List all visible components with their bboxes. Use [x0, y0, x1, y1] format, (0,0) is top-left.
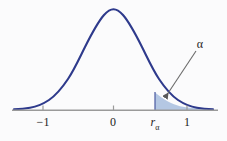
normal-density-curve — [14, 9, 213, 109]
alpha-annotation-arrow — [166, 51, 197, 97]
r-alpha-subscript: α — [155, 123, 159, 132]
xtick-label-r-alpha: rα — [141, 116, 169, 131]
normal-curve-figure: −1 0 rα 1 α — [0, 0, 227, 141]
xtick-label-one: 1 — [173, 116, 201, 128]
xtick-label-neg-one: −1 — [29, 116, 57, 128]
alpha-annotation-label: α — [190, 38, 210, 50]
xtick-label-zero: 0 — [99, 116, 127, 128]
